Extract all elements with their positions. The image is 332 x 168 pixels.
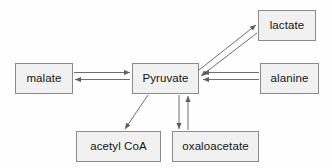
arrow-pyruvate-to-acetyl-coa — [125, 95, 148, 129]
node-oxaloacetate-label: oxaloacetate — [182, 141, 248, 153]
node-alanine-label: alanine — [271, 73, 309, 85]
node-lactate-label: lactate — [270, 20, 305, 32]
node-alanine[interactable]: alanine — [260, 63, 319, 94]
arrow-lactate-to-pyruvate — [201, 33, 257, 76]
node-acetyl-coa[interactable]: acetyl CoA — [76, 131, 161, 162]
node-malate[interactable]: malate — [15, 63, 73, 94]
node-pyruvate-label: Pyruvate — [142, 73, 188, 85]
node-lactate[interactable]: lactate — [258, 10, 316, 41]
node-oxaloacetate[interactable]: oxaloacetate — [172, 131, 259, 162]
metabolic-pathway-diagram: malate Pyruvate lactate alanine acetyl C… — [0, 0, 332, 168]
arrow-pyruvate-to-lactate — [199, 25, 256, 70]
node-malate-label: malate — [26, 73, 61, 85]
node-pyruvate[interactable]: Pyruvate — [132, 63, 199, 94]
node-acetyl-coa-label: acetyl CoA — [90, 141, 147, 153]
